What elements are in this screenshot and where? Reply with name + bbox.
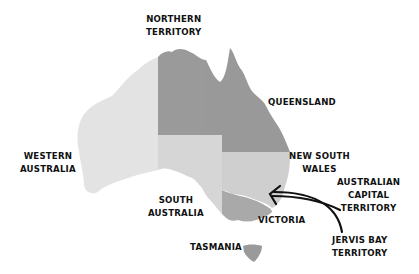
region-tasmania[interactable] (243, 245, 262, 263)
region-northern-territory[interactable] (158, 49, 206, 135)
label-western-australia: WESTERN AUSTRALIA (20, 150, 76, 176)
label-south-australia: SOUTH AUSTRALIA (148, 194, 204, 220)
label-tasmania: TASMANIA (190, 241, 242, 254)
map-canvas (0, 0, 419, 274)
label-new-south-wales: NEW SOUTH WALES (289, 150, 350, 176)
label-queensland: QUEENSLAND (268, 96, 336, 109)
australia-map: NORTHERN TERRITORY QUEENSLAND WESTERN AU… (0, 0, 419, 274)
region-western-australia[interactable] (77, 57, 158, 193)
label-victoria: VICTORIA (258, 214, 305, 227)
label-australian-capital-territory: AUSTRALIAN CAPITAL TERRITORY (337, 176, 400, 215)
label-northern-territory: NORTHERN TERRITORY (146, 13, 202, 39)
label-jervis-bay-territory: JERVIS BAY TERRITORY (332, 234, 388, 260)
